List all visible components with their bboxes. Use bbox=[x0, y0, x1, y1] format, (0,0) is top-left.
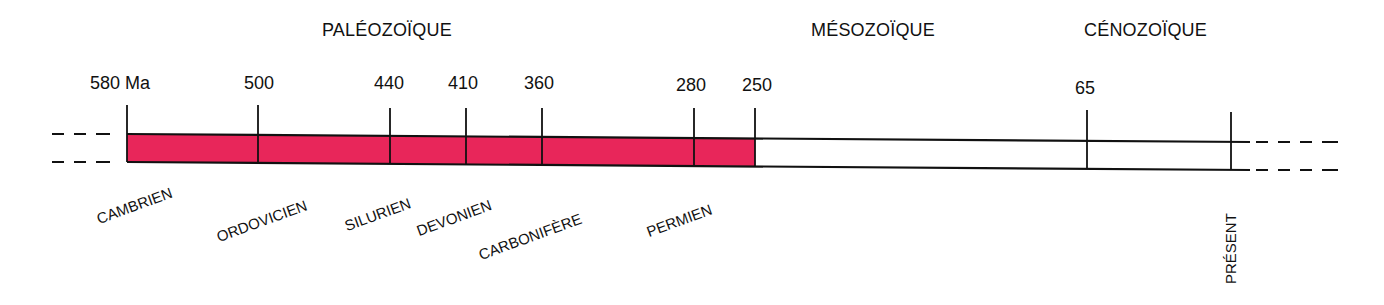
tick-label-65: 65 bbox=[1075, 78, 1095, 99]
left-dashes bbox=[52, 134, 110, 162]
timeline-graphic bbox=[0, 0, 1384, 305]
present-label: PRÉSENT bbox=[1222, 213, 1239, 284]
right-dashes bbox=[1256, 142, 1338, 170]
tick-label-280: 280 bbox=[676, 75, 706, 96]
tick-label-500: 500 bbox=[244, 73, 274, 94]
era-mesozoic-label: MÉSOZOÏQUE bbox=[811, 20, 935, 41]
era-paleozoic-label: PALÉOZOÏQUE bbox=[322, 20, 452, 41]
tick-label-580: 580 Ma bbox=[90, 73, 150, 94]
tick-label-360: 360 bbox=[524, 73, 554, 94]
tick-label-410: 410 bbox=[448, 73, 478, 94]
era-cenozoic-label: CÉNOZOÏQUE bbox=[1084, 20, 1207, 41]
tick-label-250: 250 bbox=[742, 75, 772, 96]
tick-label-440: 440 bbox=[374, 73, 404, 94]
